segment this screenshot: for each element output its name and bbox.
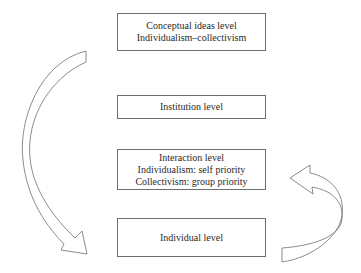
institution-level-box: Institution level — [117, 95, 266, 119]
individual-level-box: Individual level — [117, 218, 266, 257]
top-down-arrow-icon — [22, 51, 87, 254]
conceptual-ideas-level-box: Conceptual ideas level Individualism–col… — [117, 13, 266, 51]
conceptual-subtitle: Individualism–collectivism — [137, 32, 246, 44]
interaction-level-box: Interaction level Individualism: self pr… — [117, 149, 266, 190]
institution-title: Institution level — [160, 101, 223, 113]
interaction-individualism-line: Individualism: self priority — [138, 164, 246, 176]
individual-title: Individual level — [160, 232, 223, 244]
interaction-title: Interaction level — [159, 152, 224, 164]
interaction-collectivism-line: Collectivism: group priority — [135, 176, 247, 188]
conceptual-title: Conceptual ideas level — [146, 20, 237, 32]
bottom-up-arrow-icon — [282, 165, 342, 262]
